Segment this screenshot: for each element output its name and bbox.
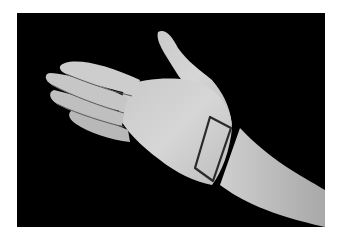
hand-photo: Black and white photograph of an open ri…	[17, 13, 325, 227]
forearm	[220, 128, 325, 227]
hand-illustration	[17, 13, 325, 227]
